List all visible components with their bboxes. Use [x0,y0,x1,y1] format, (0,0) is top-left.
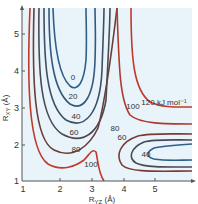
contour-label-100-left: 100 [84,160,98,169]
contour-label-60: 60 [70,128,79,137]
y-axis-arrow-icon [20,5,24,10]
y-tick-2: 2 [14,140,19,150]
contour-label-100-right: 100 [126,102,140,111]
y-tick-1: 1 [14,176,19,186]
x-tick-5: 5 [152,184,157,194]
contour-label-20: 20 [69,92,78,101]
contour-label-60-right: 60 [118,133,127,142]
chart-svg: 5 4 3 2 1 1 2 3 4 5 RYZ (Å) RXY (Å) 0 20… [0,0,198,204]
contour-label-40: 40 [72,112,81,121]
contour-label-120: 120 kJ mol⁻¹ [141,98,187,107]
y-tick-3: 3 [14,103,19,113]
contour-label-40-right: 40 [142,150,151,159]
x-axis-arrow-icon [191,179,196,183]
y-axis-label: RXY (Å) [1,94,11,121]
x-tick-2: 2 [57,184,62,194]
y-tick-4: 4 [14,66,19,76]
contour-chart: 5 4 3 2 1 1 2 3 4 5 RYZ (Å) RXY (Å) 0 20… [0,0,198,204]
y-tick-labels: 5 4 3 2 1 [14,29,19,186]
contour-label-80: 80 [72,145,81,154]
y-tick-5: 5 [14,29,19,39]
x-tick-labels: 1 2 3 4 5 [20,184,157,194]
x-tick-4: 4 [121,184,126,194]
x-tick-1: 1 [20,184,25,194]
contour-label-80-right: 80 [111,124,120,133]
x-axis-label: RYZ (Å) [89,195,116,204]
x-tick-3: 3 [89,184,94,194]
contour-label-0: 0 [71,73,76,82]
